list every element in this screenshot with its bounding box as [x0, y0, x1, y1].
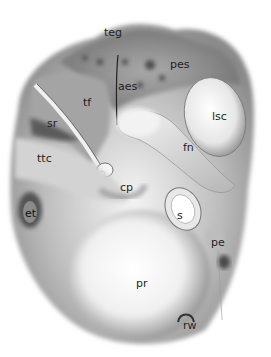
prominence-bulge — [116, 108, 160, 136]
label-cp: cp — [120, 182, 133, 193]
dark-spot — [218, 255, 230, 269]
label-fn: fn — [183, 142, 194, 153]
label-pes: pes — [170, 59, 189, 70]
label-lsc: lsc — [212, 111, 227, 122]
anatomical-illustration — [0, 0, 271, 357]
label-ttc: ttc — [37, 153, 52, 164]
label-aes: aes — [118, 81, 137, 92]
label-sr: sr — [47, 118, 57, 129]
label-pr: pr — [136, 278, 148, 289]
label-s: s — [177, 210, 183, 221]
label-et: et — [25, 208, 36, 219]
label-teg: teg — [104, 27, 122, 38]
label-rw: rw — [183, 320, 197, 331]
label-pe: pe — [211, 237, 225, 248]
label-tf: tf — [83, 97, 91, 108]
